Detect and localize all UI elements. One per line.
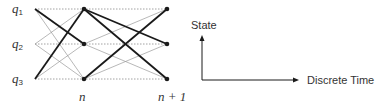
axis-label-discrete-time: Discrete Time: [307, 75, 374, 86]
trellis-diagram: [0, 0, 392, 107]
state-label-q1: q1: [12, 2, 23, 17]
state-node: [82, 77, 87, 82]
state-node: [165, 7, 170, 12]
state-label-q2: q2: [12, 37, 23, 52]
time-label-n-plus-1: n + 1: [158, 90, 186, 103]
state-node: [165, 42, 170, 47]
state-label-q3: q3: [12, 72, 23, 87]
x-axis-arrow-icon: [293, 78, 299, 83]
state-node: [82, 7, 87, 12]
y-axis-arrow-icon: [200, 35, 205, 41]
state-node: [165, 77, 170, 82]
state-node: [82, 42, 87, 47]
axis-label-state: State: [191, 20, 217, 31]
time-label-n: n: [79, 90, 86, 103]
